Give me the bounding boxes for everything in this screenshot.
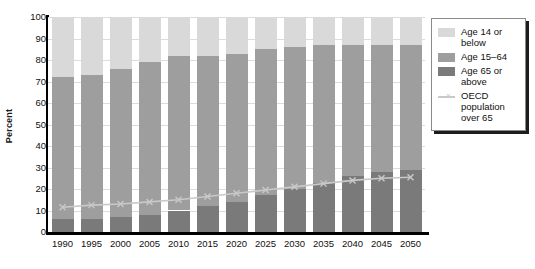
bar-segment <box>81 219 103 232</box>
bar-segment <box>284 189 306 232</box>
bar-segment <box>284 17 306 47</box>
legend-swatch-icon <box>438 53 455 62</box>
bar-segment <box>52 77 74 219</box>
legend-cross-marker-icon: × <box>445 93 452 100</box>
bar-group <box>371 17 393 232</box>
y-tick-label: 60 <box>16 98 46 108</box>
bar-segment <box>226 17 248 54</box>
bar-segment <box>371 17 393 45</box>
bar-group <box>139 17 161 232</box>
legend-item: ×OECD population over 65 <box>438 90 520 123</box>
y-tick-label: 80 <box>16 55 46 65</box>
y-tick-label: 70 <box>16 77 46 87</box>
bar-segment <box>197 17 219 56</box>
bar-segment <box>110 17 132 69</box>
bar-segment <box>255 17 277 49</box>
legend-item: Age 14 or below <box>438 26 520 48</box>
bar-segment <box>168 17 190 56</box>
bar-segment <box>342 176 364 232</box>
y-tick-label: 90 <box>16 34 46 44</box>
bar-segment <box>168 56 190 211</box>
y-axis-title: Percent <box>4 84 14 168</box>
y-tick-label: 30 <box>16 163 46 173</box>
legend-swatch-icon <box>438 28 455 37</box>
bar-group <box>255 17 277 232</box>
bar-segment <box>400 17 422 45</box>
bar-group <box>197 17 219 232</box>
bar-group <box>168 17 190 232</box>
bar-segment <box>400 170 422 232</box>
bar-segment <box>284 47 306 189</box>
bar-segment <box>400 45 422 170</box>
chart-legend: Age 14 or belowAge 15–64Age 65 or above×… <box>431 18 526 131</box>
bar-segment <box>342 45 364 176</box>
bar-group <box>284 17 306 232</box>
legend-swatch-icon <box>438 67 455 76</box>
bar-group <box>110 17 132 232</box>
bar-segment <box>168 211 190 233</box>
bar-segment <box>313 45 335 183</box>
plot-area <box>48 17 425 232</box>
bar-segment <box>371 172 393 232</box>
bar-segment <box>197 56 219 207</box>
bar-segment <box>81 17 103 75</box>
bar-segment <box>313 183 335 232</box>
bar-segment <box>110 217 132 232</box>
bar-segment <box>226 202 248 232</box>
bar-group <box>81 17 103 232</box>
bar-segment <box>52 17 74 77</box>
bar-segment <box>110 69 132 217</box>
bar-group <box>313 17 335 232</box>
y-tick-label: 50 <box>16 120 46 130</box>
y-tick-label: 10 <box>16 206 46 216</box>
legend-line-icon: × <box>438 92 455 101</box>
y-axis-tick-labels: 0102030405060708090100 <box>16 12 46 234</box>
y-tick-label: 100 <box>16 12 46 22</box>
y-tick-label: 40 <box>16 141 46 151</box>
bar-segment <box>226 54 248 202</box>
x-tick-label: 2050 <box>391 238 431 250</box>
bar-segment <box>313 17 335 45</box>
bar-segment <box>255 49 277 195</box>
x-axis-line <box>46 232 429 235</box>
bar-segment <box>255 195 277 232</box>
legend-item: Age 65 or above <box>438 65 520 87</box>
bar-segment <box>139 62 161 215</box>
y-tick-label: 20 <box>16 184 46 194</box>
bar-segment <box>52 219 74 232</box>
legend-item-label: OECD population over 65 <box>461 90 520 123</box>
legend-item-label: Age 14 or below <box>461 26 520 48</box>
bar-segment <box>139 17 161 62</box>
bar-segment <box>139 215 161 232</box>
bar-group <box>52 17 74 232</box>
bar-segment <box>342 17 364 45</box>
bar-group <box>342 17 364 232</box>
x-axis-tick-labels: 1990199520002005201020152020202520302035… <box>48 238 425 254</box>
chart-figure: Percent 0102030405060708090100 199019952… <box>0 0 535 269</box>
bar-group <box>226 17 248 232</box>
bar-segment <box>81 75 103 219</box>
legend-item: Age 15–64 <box>438 51 520 62</box>
legend-item-label: Age 15–64 <box>461 51 507 62</box>
bar-group <box>400 17 422 232</box>
y-tick-label: 0 <box>16 227 46 237</box>
bar-segment <box>371 45 393 172</box>
legend-item-label: Age 65 or above <box>461 65 520 87</box>
bar-segment <box>197 206 219 232</box>
